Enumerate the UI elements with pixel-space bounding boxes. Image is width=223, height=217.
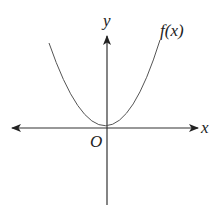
- parabola-curve: [49, 40, 160, 126]
- y-axis-label: y: [101, 11, 111, 30]
- function-graph: y x O f(x): [0, 0, 223, 217]
- curve-label: f(x): [160, 21, 184, 40]
- origin-label: O: [90, 132, 102, 151]
- x-axis-label: x: [200, 118, 209, 137]
